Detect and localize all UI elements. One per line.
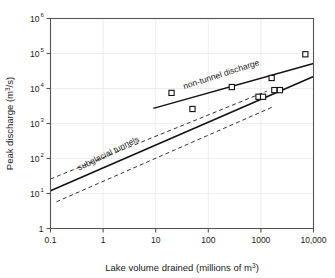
y-tick-label: 103: [30, 117, 44, 129]
data-point-marker: [269, 75, 274, 80]
y-tick-labels: 1101102103104105106: [30, 12, 44, 234]
gridlines: [51, 19, 314, 229]
data-point-marker: [229, 84, 234, 89]
y-tick-label: 102: [30, 152, 44, 164]
svg-text:10: 10: [30, 154, 40, 164]
axis-frame: [47, 19, 314, 233]
confidence-bands: [51, 91, 274, 202]
svg-text:1: 1: [39, 224, 44, 234]
x-tick-label: 0.1: [45, 235, 57, 245]
x-axis-label: Lake volume drained (millions of m3): [105, 262, 259, 274]
annotation-label: non-tunnel discharge: [182, 57, 261, 91]
data-point-marker: [277, 88, 282, 93]
y-tick-label: 101: [30, 187, 44, 199]
x-tick-label: 10: [151, 235, 161, 245]
svg-text:10: 10: [30, 14, 40, 24]
svg-text:3: 3: [41, 117, 45, 123]
chart-figure: 0.1110100100010,0001101102103104105106La…: [0, 0, 335, 278]
data-point-marker: [303, 52, 308, 57]
data-point-marker: [169, 90, 174, 95]
x-tick-label: 1000: [251, 235, 270, 245]
svg-text:6: 6: [41, 12, 45, 18]
y-axis-label: Peak discharge (m3/s): [4, 77, 16, 170]
annotation-label: subglacial tunnels: [76, 134, 141, 173]
svg-text:10: 10: [30, 49, 40, 59]
x-tick-labels: 0.1110100100010,000: [45, 235, 327, 245]
y-tick-label: 104: [30, 82, 44, 94]
svg-text:10: 10: [30, 84, 40, 94]
y-tick-label: 105: [30, 47, 44, 59]
svg-text:2: 2: [41, 152, 45, 158]
trend-line: [51, 77, 314, 191]
confidence-band-line: [56, 107, 273, 202]
y-tick-label: 106: [30, 12, 44, 24]
data-point-marker: [272, 88, 277, 93]
svg-text:10: 10: [30, 119, 40, 129]
data-point-marker: [190, 106, 195, 111]
svg-text:1: 1: [41, 187, 45, 193]
x-tick-label: 1: [101, 235, 106, 245]
x-tick-label: 100: [201, 235, 215, 245]
x-tick-label: 10,000: [301, 235, 327, 245]
axis-titles: Lake volume drained (millions of m3)Peak…: [4, 77, 259, 273]
svg-text:5: 5: [41, 47, 45, 53]
y-tick-label: 1: [39, 224, 44, 234]
svg-text:4: 4: [41, 82, 45, 88]
svg-text:10: 10: [30, 189, 40, 199]
data-point-marker: [260, 94, 265, 99]
